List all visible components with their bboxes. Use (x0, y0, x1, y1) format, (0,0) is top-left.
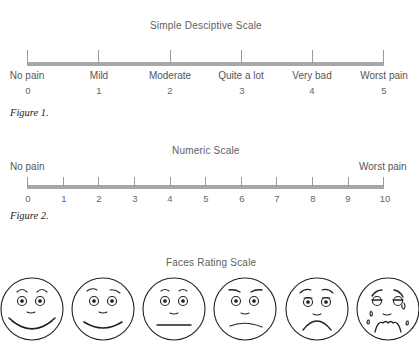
faces-drawing (0, 0, 419, 353)
slightly-sad-face-icon (214, 278, 276, 340)
neutral-face-icon (143, 278, 205, 340)
happy-face-icon (72, 278, 134, 340)
very-happy-face-icon (1, 278, 63, 340)
crying-face-icon (357, 278, 419, 340)
sad-face-icon (286, 278, 348, 340)
